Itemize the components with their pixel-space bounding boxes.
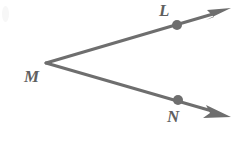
ray-ml (46, 8, 231, 63)
point-dot-l (172, 20, 182, 30)
ray-ml-line (46, 14, 213, 63)
geometry-figure: M L N (0, 0, 240, 150)
point-dot-n (173, 95, 183, 105)
point-label-l: L (159, 2, 169, 19)
ray-mn (46, 63, 231, 118)
point-label-n: N (167, 108, 179, 125)
point-label-m: M (24, 68, 39, 85)
ray-mn-arrowhead-icon (203, 105, 231, 118)
ray-mn-line (46, 63, 212, 111)
